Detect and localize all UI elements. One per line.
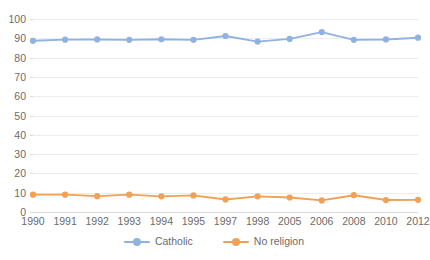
y-tick-0 (30, 212, 33, 213)
data-point (222, 33, 228, 39)
gridline-0 (33, 212, 418, 213)
series-layer (33, 19, 418, 212)
plot-area (33, 19, 418, 212)
x-tick-label-1993: 1993 (118, 215, 141, 228)
chart-legend: CatholicNo religion (0, 236, 428, 247)
data-point (415, 197, 421, 203)
data-point (62, 37, 68, 43)
y-tick-label-50: 50 (0, 111, 26, 122)
data-point (287, 36, 293, 42)
x-tick-label-1998: 1998 (246, 215, 269, 228)
data-point (383, 197, 389, 203)
y-tick-label-70: 70 (0, 72, 26, 83)
legend-swatch-icon (223, 236, 249, 247)
legend-item-no-religion[interactable]: No religion (223, 236, 304, 247)
x-tick-label-2012: 2012 (406, 215, 429, 228)
data-point (351, 37, 357, 43)
data-point (287, 194, 293, 200)
x-tick-label-1997: 1997 (214, 215, 237, 228)
y-tick-label-100: 100 (0, 14, 26, 25)
y-tick-label-90: 90 (0, 33, 26, 44)
y-tick-label-10: 10 (0, 188, 26, 199)
y-tick-label-80: 80 (0, 53, 26, 64)
data-point (126, 192, 132, 198)
x-tick-label-1992: 1992 (85, 215, 108, 228)
y-tick-label-30: 30 (0, 149, 26, 160)
data-point (30, 192, 36, 198)
y-tick-label-20: 20 (0, 168, 26, 179)
x-tick-label-2010: 2010 (374, 215, 397, 228)
data-point (415, 35, 421, 41)
x-tick-label-2006: 2006 (310, 215, 333, 228)
x-tick-label-1991: 1991 (53, 215, 76, 228)
x-tick-label-2005: 2005 (278, 215, 301, 228)
data-point (319, 29, 325, 35)
data-point (94, 36, 100, 42)
x-tick-label-1994: 1994 (150, 215, 173, 228)
data-point (190, 192, 196, 198)
data-point (158, 193, 164, 199)
x-tick-label-2008: 2008 (342, 215, 365, 228)
y-axis: 1009080706050403020100 (0, 19, 28, 212)
data-point (383, 36, 389, 42)
x-tick-label-1990: 1990 (21, 215, 44, 228)
data-point (190, 37, 196, 43)
data-point (62, 192, 68, 198)
data-point (30, 38, 36, 44)
data-point (158, 36, 164, 42)
legend-label: Catholic (155, 236, 193, 247)
x-tick-label-1995: 1995 (182, 215, 205, 228)
data-point (126, 37, 132, 43)
data-point (254, 193, 260, 199)
legend-swatch-icon (124, 236, 150, 247)
legend-label: No religion (254, 236, 304, 247)
data-point (222, 196, 228, 202)
data-point (254, 38, 260, 44)
x-axis: 1990199119921993199419951997199820052006… (33, 215, 418, 231)
series-no-religion (30, 192, 421, 204)
legend-item-catholic[interactable]: Catholic (124, 236, 193, 247)
data-point (319, 197, 325, 203)
data-point (351, 192, 357, 198)
data-point (94, 193, 100, 199)
y-tick-label-40: 40 (0, 130, 26, 141)
y-tick-label-60: 60 (0, 91, 26, 102)
series-catholic (30, 29, 421, 45)
